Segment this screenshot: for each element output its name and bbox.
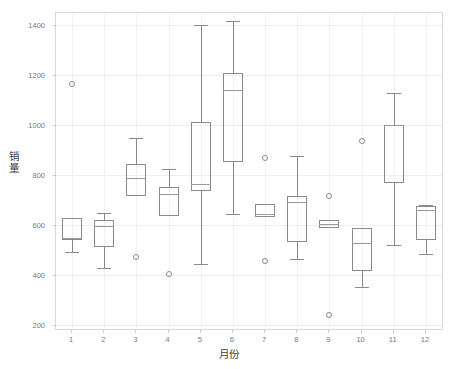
x-axis-tick-label: 10 — [356, 335, 364, 344]
x-axis-tick-label: 12 — [421, 335, 429, 344]
x-axis-tick — [425, 330, 426, 333]
x-axis-tick — [264, 330, 265, 333]
box-iqr — [416, 206, 436, 239]
x-axis-tick — [135, 330, 136, 333]
x-axis-tick-label: 9 — [326, 335, 330, 344]
x-axis-title: 月份 — [0, 346, 457, 361]
x-axis-tick-label: 8 — [294, 335, 298, 344]
y-axis-tick-labels: 200400600800100012001400 — [0, 12, 49, 330]
x-axis-tick — [393, 330, 394, 333]
x-axis-tick — [168, 330, 169, 333]
whisker-lower-line — [426, 240, 427, 254]
x-axis-tick — [361, 330, 362, 333]
y-axis-tick-label: 400 — [32, 271, 45, 280]
y-axis-tick-label: 1000 — [28, 121, 45, 130]
x-axis-tick-label: 4 — [165, 335, 169, 344]
y-axis-tick-label: 1200 — [28, 71, 45, 80]
x-axis-tick-label: 7 — [262, 335, 266, 344]
y-axis-tick-label: 1400 — [28, 21, 45, 30]
x-axis-tick-label: 5 — [198, 335, 202, 344]
x-axis-tick — [328, 330, 329, 333]
y-axis-tick-label: 800 — [32, 171, 45, 180]
box-plot-group[interactable] — [56, 13, 442, 331]
x-axis-tick-label: 1 — [69, 335, 73, 344]
x-axis-tick — [103, 330, 104, 333]
x-axis-tick — [71, 330, 72, 333]
x-axis-tick-label: 11 — [389, 335, 397, 344]
y-axis-tick-label: 200 — [32, 321, 45, 330]
whisker-lower-cap — [419, 254, 433, 255]
median-line — [416, 210, 436, 211]
y-axis-tick-label: 600 — [32, 221, 45, 230]
x-axis-tick-label: 2 — [101, 335, 105, 344]
plot-area — [55, 12, 443, 330]
x-axis-tick-label: 6 — [230, 335, 234, 344]
x-axis-tick — [296, 330, 297, 333]
x-axis-tick — [232, 330, 233, 333]
boxplot-chart: 销量 200400600800100012001400 123456789101… — [0, 0, 457, 369]
x-axis-tick — [200, 330, 201, 333]
x-axis-tick-label: 3 — [133, 335, 137, 344]
